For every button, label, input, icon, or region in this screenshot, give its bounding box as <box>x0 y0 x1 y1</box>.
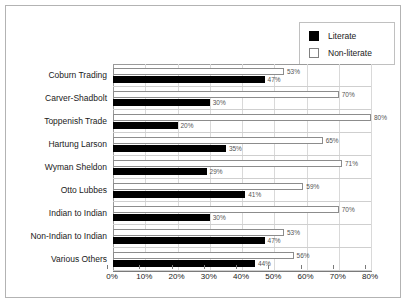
x-axis-tick <box>365 265 366 269</box>
bar-value-literate: 47% <box>268 76 281 83</box>
legend-swatch-non-literate-icon <box>309 48 319 58</box>
category-axis-labels: Coburn TradingCarver-ShadboltToppenish T… <box>6 64 107 271</box>
bar-literate[interactable] <box>113 145 226 152</box>
bar-value-non-literate: 80% <box>374 114 387 121</box>
category-label: Non-Indian to Indian <box>7 231 107 241</box>
category-label: Otto Lubbes <box>7 185 107 195</box>
x-axis-tick-label: 10% <box>136 272 152 281</box>
bar-non-literate[interactable] <box>113 114 371 121</box>
bar-non-literate[interactable] <box>113 160 342 167</box>
x-axis-tick <box>172 265 173 269</box>
x-axis-tick-label: 40% <box>233 272 249 281</box>
legend-label-non-literate: Non-literate <box>328 48 372 58</box>
x-axis-tick <box>204 265 205 269</box>
category-label: Wyman Sheldon <box>7 162 107 172</box>
x-axis-tick <box>107 265 108 269</box>
bar-non-literate[interactable] <box>113 206 339 213</box>
x-axis-tick-label: 50% <box>265 272 281 281</box>
bar-value-non-literate: 53% <box>287 229 300 236</box>
bar-non-literate[interactable] <box>113 137 323 144</box>
bar-literate[interactable] <box>113 168 207 175</box>
x-axis-tick-label: 0% <box>106 272 118 281</box>
bar-value-literate: 29% <box>210 168 223 175</box>
bar-non-literate[interactable] <box>113 91 339 98</box>
bar-value-literate: 35% <box>229 145 242 152</box>
bar-group: 59%41% <box>113 179 371 202</box>
category-label: Various Others <box>7 254 107 264</box>
x-axis-tick-label: 60% <box>297 272 313 281</box>
bar-value-non-literate: 65% <box>326 137 339 144</box>
x-axis-tick <box>333 265 334 269</box>
x-axis-tick <box>139 265 140 269</box>
bar-literate[interactable] <box>113 191 245 198</box>
bar-group: 65%35% <box>113 133 371 156</box>
grid-line <box>371 64 372 271</box>
category-label: Indian to Indian <box>7 208 107 218</box>
category-label: Coburn Trading <box>7 70 107 80</box>
bar-literate[interactable] <box>113 122 178 129</box>
bar-value-literate: 30% <box>213 99 226 106</box>
bar-non-literate[interactable] <box>113 252 294 259</box>
bar-value-non-literate: 53% <box>287 68 300 75</box>
bar-literate[interactable] <box>113 237 265 244</box>
x-axis-tick <box>301 265 302 269</box>
bar-non-literate[interactable] <box>113 229 284 236</box>
bar-value-non-literate: 71% <box>345 160 358 167</box>
bar-literate[interactable] <box>113 99 210 106</box>
bar-value-non-literate: 70% <box>342 206 355 213</box>
plot-area: 53%47%70%30%80%20%65%35%71%29%59%41%70%3… <box>113 64 371 271</box>
bar-group: 70%30% <box>113 202 371 225</box>
bar-group: 70%30% <box>113 87 371 110</box>
legend-item-literate[interactable]: Literate <box>309 28 394 44</box>
bar-group: 53%47% <box>113 225 371 248</box>
bar-group: 53%47% <box>113 64 371 87</box>
legend-item-non-literate[interactable]: Non-literate <box>309 45 394 61</box>
x-axis-tick-label: 20% <box>168 272 184 281</box>
chart-legend: Literate Non-literate <box>299 22 395 65</box>
bar-value-literate: 41% <box>248 191 261 198</box>
legend-label-literate: Literate <box>328 31 356 41</box>
x-axis-tick-label: 70% <box>330 272 346 281</box>
category-label: Hartung Larson <box>7 139 107 149</box>
x-axis-tick-label: 30% <box>201 272 217 281</box>
bar-value-non-literate: 56% <box>297 252 310 259</box>
bar-value-literate: 20% <box>181 122 194 129</box>
bar-literate[interactable] <box>113 214 210 221</box>
category-label: Toppenish Trade <box>7 116 107 126</box>
bar-value-non-literate: 59% <box>306 183 319 190</box>
bar-value-literate: 30% <box>213 214 226 221</box>
x-axis-tick <box>236 265 237 269</box>
bar-non-literate[interactable] <box>113 68 284 75</box>
x-axis-tick-label: 80% <box>362 272 378 281</box>
bar-value-non-literate: 70% <box>342 91 355 98</box>
bar-group: 80%20% <box>113 110 371 133</box>
bar-literate[interactable] <box>113 76 265 83</box>
legend-swatch-literate-icon <box>309 31 319 41</box>
bar-value-literate: 47% <box>268 237 281 244</box>
bar-literate[interactable] <box>113 260 255 267</box>
bar-group: 71%29% <box>113 156 371 179</box>
x-axis-tick <box>268 265 269 269</box>
bar-non-literate[interactable] <box>113 183 303 190</box>
category-label: Carver-Shadbolt <box>7 93 107 103</box>
chart-frame: Literate Non-literate Coburn TradingCarv… <box>5 5 401 298</box>
